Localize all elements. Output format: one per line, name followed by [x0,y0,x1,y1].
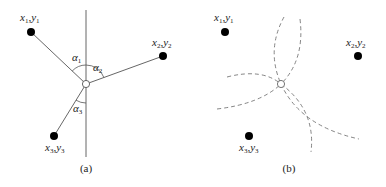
anchor-point-2 [354,52,362,60]
angle-label-1: α1 [72,51,82,65]
dashed-arc-lower-right [281,84,359,139]
anchor-point-3 [245,132,253,140]
unknown-position-marker [82,80,89,87]
panel-b-caption: (b) [283,162,296,175]
panel-a-caption: (a) [80,162,93,175]
point-3-label: x3,y3 [44,141,65,155]
point-2-label: x2,y2 [151,36,172,50]
diagram-canvas: x1,y1 x2,y2 x3,y3 α1 α2 α3 (a) [0,0,386,187]
dashed-arc-upper-right [281,19,301,84]
dashed-arc-left-upper [227,74,281,84]
anchor-point-2 [159,52,167,60]
anchor-point-3 [50,132,58,140]
anchor-point-1 [221,28,229,36]
point-1-label: x1,y1 [213,11,234,25]
dashed-arc-upper-left [274,17,284,84]
angle-label-3: α3 [73,102,83,116]
dashed-arc-left-lower [217,84,281,109]
point-1-label: x1,y1 [19,11,40,25]
dashed-arc-lower-down [281,84,312,152]
point-2-label: x2,y2 [345,36,366,50]
angle-arc-1 [72,65,86,71]
panel-a: x1,y1 x2,y2 x3,y3 α1 α2 α3 (a) [19,10,172,175]
angle-label-2: α2 [93,61,103,75]
intersection-marker [277,80,284,87]
anchor-point-1 [27,28,35,36]
panel-b: x1,y1 x2,y2 x3,y3 (b) [213,11,366,175]
point-3-label: x3,y3 [238,141,259,155]
